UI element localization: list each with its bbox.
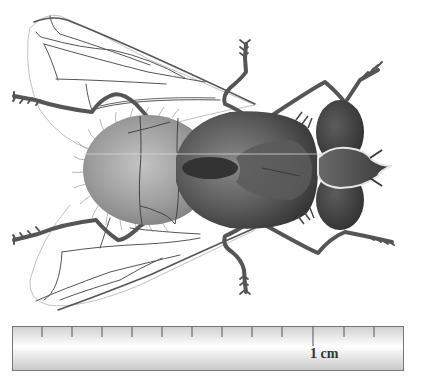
ruler-graphic: [12, 326, 404, 371]
head: [316, 100, 392, 230]
scale-label: 1 cm: [310, 346, 338, 362]
fly-illustration: [0, 0, 424, 320]
scale-bar: 1 cm: [12, 326, 404, 371]
